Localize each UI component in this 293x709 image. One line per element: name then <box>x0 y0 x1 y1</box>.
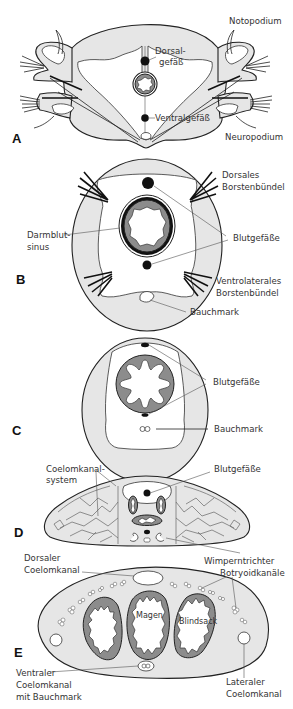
label-ventral-canal-3: mit Bauchmark <box>16 692 82 702</box>
panel-a: Notopodium Dorsal- gefäß Ventralgefäß Ne… <box>12 16 283 148</box>
dorsal-vessel-d <box>144 490 151 497</box>
label-gut-sinus-1: Darmblut- <box>27 230 70 240</box>
label-ventrolateral-bristles-2: Borstenbündel <box>216 288 279 298</box>
ventral-vessel-c <box>142 413 149 417</box>
label-blood-vessels-b: Blutgefäße <box>233 233 280 243</box>
label-ventral-vessel: Ventralgefäß <box>155 113 211 123</box>
label-coelom-canal-1: Coelomkanal- <box>46 464 105 474</box>
label-dorsal-bristles-2: Borstenbündel <box>222 182 285 192</box>
dorsal-coelom-canal <box>133 571 163 585</box>
label-dorsal-vessel-2: gefäß <box>159 57 184 67</box>
lateral-coelom-canal-left <box>50 634 62 646</box>
label-nerve-cord-b: Bauchmark <box>190 307 239 317</box>
stomach-lumen <box>132 596 165 654</box>
label-lateral-canal-2: Coelomkanal <box>226 689 282 699</box>
label-nerve-cord-c: Bauchmark <box>214 424 263 434</box>
ventral-vessel-d <box>144 530 150 534</box>
label-blood-vessels-c: Blutgefäße <box>213 377 260 387</box>
lateral-coelom-canal-right <box>238 632 250 644</box>
label-stomach: Magen <box>136 611 163 620</box>
chaetae-right-neuro <box>250 96 272 112</box>
nerve-cord-a <box>141 133 151 140</box>
dorsal-vessel-c <box>141 343 149 347</box>
label-dorsal-canal-1: Dorsaler <box>24 553 61 563</box>
nerve-cord-d <box>144 538 150 542</box>
gut-lumen-c <box>120 360 170 408</box>
label-dorsal-canal-2: Coelomkanal <box>24 565 80 575</box>
label-ventrolateral-bristles-1: Ventrolaterales <box>216 276 282 286</box>
label-ventral-canal-2: Coelomkanal <box>16 680 72 690</box>
panel-b: Dorsales Borstenbündel Darmblut- sinus B… <box>16 159 285 331</box>
ventral-vessel-a <box>141 114 149 122</box>
label-ciliated-funnel: Wimperntrichter <box>204 556 275 566</box>
label-blood-vessels-d: Blutgefäße <box>214 464 261 474</box>
label-dorsal-vessel-1: Dorsal- <box>155 46 186 56</box>
annelid-cross-section-figure: Notopodium Dorsal- gefäß Ventralgefäß Ne… <box>0 0 293 709</box>
label-botryoid-canals: Botryoidkanäle <box>220 568 285 578</box>
label-dorsal-bristles-1: Dorsales <box>222 170 260 180</box>
label-blind-sac: Blindsack <box>179 617 218 626</box>
label-gut-sinus-2: sinus <box>27 242 50 252</box>
ventral-cirrus-left <box>34 116 54 128</box>
label-lateral-canal-1: Lateraler <box>226 677 265 687</box>
label-neuropodium: Neuropodium <box>225 132 283 142</box>
gut-lateral-left-lumen <box>131 498 135 513</box>
panel-d: Coelomkanal- system Blutgefäße Wimperntr… <box>14 464 275 566</box>
panel-label-a: A <box>12 131 22 146</box>
gut-lateral-right-lumen <box>159 498 163 513</box>
panel-label-c: C <box>12 423 22 438</box>
dorsal-vessel-a <box>141 57 150 66</box>
panel-label-e: E <box>14 645 23 660</box>
ventral-vessel-b <box>143 261 152 270</box>
label-coelom-canal-2: system <box>46 475 77 485</box>
panel-c: Blutgefäße Bauchmark C <box>12 338 263 482</box>
ventral-cirrus-right <box>236 116 256 128</box>
panel-label-b: B <box>16 272 25 287</box>
dorsal-vessel-b <box>142 177 154 189</box>
label-ventral-canal-1: Ventraler <box>16 668 56 678</box>
panel-e: Dorsaler Coelomkanal Botryoidkanäle Mage… <box>14 553 285 702</box>
label-notopodium: Notopodium <box>229 16 282 26</box>
panel-label-d: D <box>14 525 23 540</box>
chaetae-left-neuro <box>20 96 40 112</box>
